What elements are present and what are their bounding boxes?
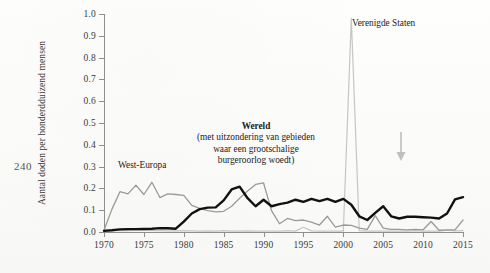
annotation-wereld: Wereld (met uitzondering van gebieden wa… <box>196 121 316 167</box>
annotation-verenigde-staten: Verenigde Staten <box>352 18 415 29</box>
y-tick-label: 0.9 <box>84 31 96 41</box>
x-tick-label: 1980 <box>174 240 194 250</box>
callout-arrow-icon <box>393 132 409 162</box>
x-tick-label: 2000 <box>333 240 353 250</box>
x-axis-line <box>104 232 463 233</box>
y-tick-label: 0.2 <box>84 183 96 193</box>
annotation-wereld-title: Wereld <box>196 121 316 132</box>
x-tick <box>144 232 145 237</box>
annotation-west-europa: West-Europa <box>118 160 166 171</box>
x-tick <box>343 232 344 237</box>
series-line-west-europa <box>104 182 463 230</box>
book-page: 240 Aantal doden per honderdduizend mens… <box>0 0 490 273</box>
y-tick-label: 1.0 <box>84 9 96 19</box>
x-tick-label: 1995 <box>294 240 314 250</box>
y-tick-label: 0.0 <box>84 227 96 237</box>
x-tick <box>463 232 464 237</box>
y-tick-label: 0.8 <box>84 53 96 63</box>
y-tick-label: 0.1 <box>84 205 96 215</box>
annotation-wereld-subtitle: (met uitzondering van gebieden waar een … <box>196 132 316 166</box>
x-tick <box>184 232 185 237</box>
y-tick-label: 0.7 <box>84 74 96 84</box>
y-tick-label: 0.3 <box>84 162 96 172</box>
y-tick-label: 0.5 <box>84 118 96 128</box>
x-tick <box>104 232 105 237</box>
x-tick <box>423 232 424 237</box>
x-tick-label: 2015 <box>453 240 473 250</box>
x-tick-label: 1990 <box>254 240 274 250</box>
y-tick-label: 0.6 <box>84 96 96 106</box>
x-tick <box>264 232 265 237</box>
x-tick <box>224 232 225 237</box>
x-tick <box>303 232 304 237</box>
y-tick-label: 0.4 <box>84 140 96 150</box>
x-tick-label: 1985 <box>214 240 234 250</box>
y-axis-title: Aantal doden per honderdduizend mensen <box>37 41 47 205</box>
x-tick-label: 1970 <box>94 240 114 250</box>
page-number: 240 <box>14 160 32 172</box>
x-tick-label: 1975 <box>134 240 154 250</box>
x-tick-label: 2005 <box>373 240 393 250</box>
x-tick <box>383 232 384 237</box>
x-tick-label: 2010 <box>413 240 433 250</box>
